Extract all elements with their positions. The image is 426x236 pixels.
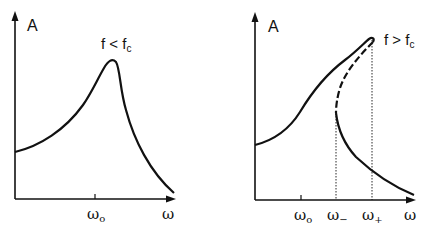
left-tick-label-omega0: ωo: [87, 207, 105, 224]
right-y-label: A: [268, 19, 279, 35]
right-omega-minus-sub: −: [339, 214, 347, 225]
right-y-label-text: A: [268, 18, 279, 35]
left-omega0-sub: o: [99, 213, 105, 224]
right-x-label: ω: [404, 208, 416, 223]
right-condition-sub: c: [409, 39, 414, 50]
right-omega-plus-sub: +: [374, 214, 382, 225]
right-x-arrow-icon: [406, 197, 416, 204]
right-x-label-text: ω: [404, 206, 416, 224]
left-panel: [12, 11, 177, 203]
right-condition-label: f > fc: [384, 32, 414, 50]
left-x-arrow-icon: [166, 196, 176, 203]
right-y-arrow-icon: [252, 12, 259, 22]
left-condition-text: f < f: [101, 35, 126, 52]
right-omega0-text: ω: [294, 206, 306, 224]
right-lower-stable-branch: [336, 113, 414, 195]
right-omega0-sub: o: [306, 214, 312, 225]
left-y-label: A: [27, 18, 38, 34]
left-y-label-text: A: [27, 17, 38, 34]
right-upper-stable-branch: [255, 38, 374, 145]
right-condition-text: f > f: [384, 31, 409, 48]
left-condition-label: f < fc: [101, 36, 131, 54]
right-omega-plus-text: ω: [362, 206, 374, 224]
right-tick-label-omega-plus: ω+: [362, 208, 383, 225]
left-resonance-curve: [15, 60, 174, 193]
left-x-label: ω: [162, 207, 174, 222]
right-tick-label-omega-minus: ω−: [327, 208, 348, 225]
right-omega-minus-text: ω: [327, 206, 339, 224]
left-omega0-text: ω: [87, 205, 99, 223]
right-tick-label-omega0: ωo: [294, 208, 312, 225]
left-condition-sub: c: [126, 43, 131, 54]
resonance-diagram: [0, 0, 426, 236]
left-y-arrow-icon: [12, 11, 19, 21]
left-x-label-text: ω: [162, 205, 174, 223]
